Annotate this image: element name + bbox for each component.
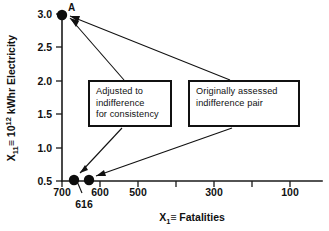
x-tick-label-300: 300 bbox=[205, 186, 223, 198]
data-point-616 bbox=[69, 175, 79, 185]
x-tick-label-600: 600 bbox=[91, 186, 109, 198]
arrowhead-original-to-600 bbox=[96, 170, 106, 176]
y-axis-title-tail: kWhr Electricity bbox=[5, 35, 17, 117]
svg-text:X1≡ Fatalities: X1≡ Fatalities bbox=[159, 211, 225, 226]
y-axis-title-var: X bbox=[5, 154, 17, 161]
x-tick-label-700: 700 bbox=[53, 186, 71, 198]
y-tick-label-1-5: 1.5 bbox=[37, 108, 52, 120]
x-axis-title-var: X bbox=[159, 211, 166, 223]
x-axis-title: X1≡ Fatalities bbox=[159, 211, 225, 226]
data-point-a bbox=[57, 10, 67, 20]
callout-adjusted-to-indifference: Adjusted to indifference for consistency bbox=[88, 80, 172, 127]
data-point-a-label: A bbox=[68, 2, 75, 13]
y-tick-label-2-5: 2.5 bbox=[37, 41, 52, 53]
y-tick-label-0-5: 0.5 bbox=[37, 175, 52, 187]
y-axis-title: X11≡ 1012 kWhr Electricity bbox=[4, 35, 20, 161]
x-axis-title-tail: ≡ Fatalities bbox=[170, 211, 225, 223]
connector-original-to-600 bbox=[96, 128, 232, 176]
indifference-pair-chart: 0.5 1.0 1.5 2.0 2.5 3.0 700 600 500 300 … bbox=[0, 0, 329, 231]
x-tick-label-500: 500 bbox=[129, 186, 147, 198]
callout-originally-assessed: Originally assessed indifference pair bbox=[188, 80, 300, 127]
connector-original-to-a bbox=[70, 16, 230, 80]
data-point-600 bbox=[84, 175, 94, 185]
y-tick-label-3-0: 3.0 bbox=[37, 8, 52, 20]
data-point-616-label: 616 bbox=[75, 198, 93, 210]
y-axis-title-exponent: 12 bbox=[4, 117, 13, 125]
y-axis-title-subscript: 11 bbox=[11, 146, 20, 154]
connector-adjusted-to-616 bbox=[80, 128, 122, 173]
y-tick-label-2-0: 2.0 bbox=[37, 75, 52, 87]
y-axis-title-equiv: ≡ 10 bbox=[5, 125, 17, 146]
x-tick-label-100: 100 bbox=[281, 186, 299, 198]
svg-text:X11≡ 1012 kWhr Electricity: X11≡ 1012 kWhr Electricity bbox=[4, 35, 20, 161]
y-tick-label-1-0: 1.0 bbox=[37, 142, 52, 154]
